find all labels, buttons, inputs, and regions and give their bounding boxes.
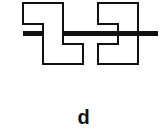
- diagram: [0, 0, 167, 100]
- horizontal-bar-left-segment: [23, 31, 43, 36]
- figure-label: d: [0, 105, 167, 129]
- horizontal-bar-right-segment: [63, 31, 158, 36]
